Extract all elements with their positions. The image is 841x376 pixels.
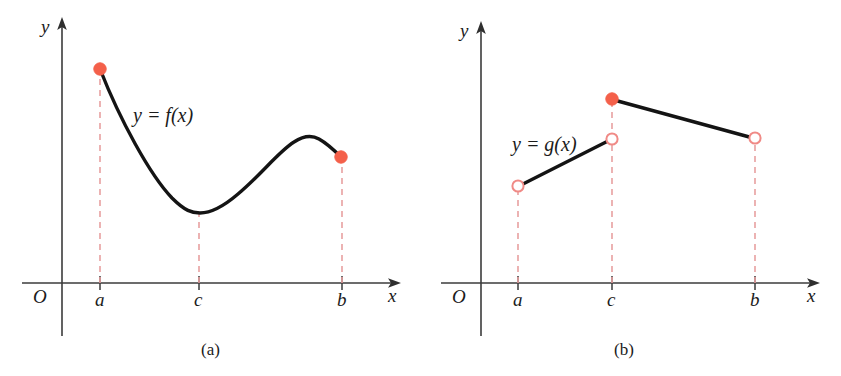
origin-label-a: O: [33, 286, 47, 307]
y-axis-b: [476, 21, 486, 336]
y-axis-label-a: y: [39, 16, 50, 37]
y-axis-label-b: y: [458, 20, 469, 41]
panel-b-svg: y x O a c b y = g(x) (b): [420, 0, 841, 376]
x-axis-label-b: x: [806, 285, 816, 306]
x-tick-label-b-2: b: [750, 289, 760, 310]
endpoint-marker-b-b-open: [749, 132, 760, 143]
panel-caption-a: (a): [201, 340, 220, 359]
figure-container: y x O a c b y = f(x) (a): [0, 0, 841, 376]
x-axis-a: [22, 278, 401, 288]
x-tick-label-b-0: a: [513, 289, 523, 310]
panel-a-svg: y x O a c b y = f(x) (a): [0, 0, 420, 376]
x-tick-label-a-0: a: [95, 289, 105, 310]
function-segment-g-2: [614, 100, 753, 138]
function-curve-f: [100, 69, 341, 213]
y-axis-a: [57, 17, 67, 336]
x-tick-label-a-2: b: [337, 289, 347, 310]
panel-a: y x O a c b y = f(x) (a): [0, 0, 420, 376]
panel-caption-b: (b): [614, 340, 634, 359]
endpoint-marker-b-c-open: [606, 133, 617, 144]
x-tick-label-a-1: c: [194, 289, 203, 310]
endpoint-marker-a-filled: [94, 63, 106, 75]
endpoint-marker-b-c-filled: [606, 93, 618, 105]
x-axis-b: [441, 278, 820, 288]
function-label-f: y = f(x): [131, 104, 193, 127]
endpoint-marker-b-filled: [335, 151, 347, 163]
origin-label-b: O: [452, 286, 466, 307]
panel-b: y x O a c b y = g(x) (b): [420, 0, 841, 376]
endpoint-marker-b-a-open: [512, 180, 523, 191]
x-axis-label-a: x: [387, 285, 397, 306]
function-label-g: y = g(x): [510, 133, 577, 156]
x-tick-label-b-1: c: [607, 289, 616, 310]
